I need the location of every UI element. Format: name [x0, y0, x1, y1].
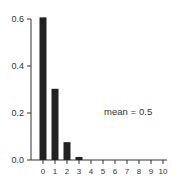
x-tick-label: 9 [149, 167, 154, 176]
x-tick-label: 2 [65, 167, 70, 176]
axes: 0.00.20.40.6012345678910 [11, 14, 168, 176]
x-tick-label: 4 [89, 167, 94, 176]
bars [40, 17, 83, 160]
bar [40, 17, 47, 160]
bar [64, 142, 71, 160]
x-tick-label: 6 [113, 167, 118, 176]
y-tick-label: 0.2 [11, 108, 24, 118]
y-tick-label: 0.6 [11, 14, 24, 24]
x-tick-label: 0 [41, 167, 46, 176]
x-tick-label: 3 [77, 167, 82, 176]
bar-chart: 0.00.20.40.6012345678910 mean = 0.5 [0, 0, 193, 191]
bar [76, 157, 83, 160]
x-tick-label: 1 [53, 167, 58, 176]
x-tick-label: 8 [137, 167, 142, 176]
bar [52, 89, 59, 160]
annotation-label: mean = [104, 106, 136, 117]
y-tick-label: 0.4 [11, 61, 24, 71]
x-tick-label: 10 [159, 167, 168, 176]
x-tick-label: 7 [125, 167, 130, 176]
annotation-value: 0.5 [139, 106, 152, 117]
x-tick-label: 5 [101, 167, 106, 176]
y-tick-label: 0.0 [11, 155, 24, 165]
